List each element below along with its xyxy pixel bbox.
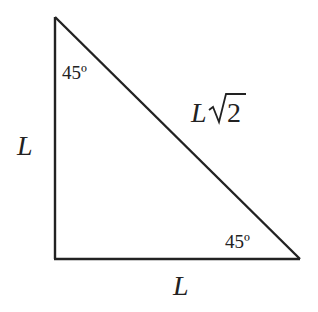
hypotenuse bbox=[55, 17, 300, 259]
left-side-label: L bbox=[16, 130, 33, 161]
bottom-side-label: L bbox=[172, 270, 189, 301]
hypotenuse-label: L 2 bbox=[190, 94, 246, 128]
bottom-angle-label: 45º bbox=[225, 231, 250, 252]
top-angle-label: 45º bbox=[62, 62, 87, 83]
hypotenuse-label-radicand: 2 bbox=[227, 97, 241, 128]
triangle-diagram: 45º 45º L L L 2 bbox=[0, 0, 318, 312]
hypotenuse-label-l: L bbox=[190, 97, 207, 128]
